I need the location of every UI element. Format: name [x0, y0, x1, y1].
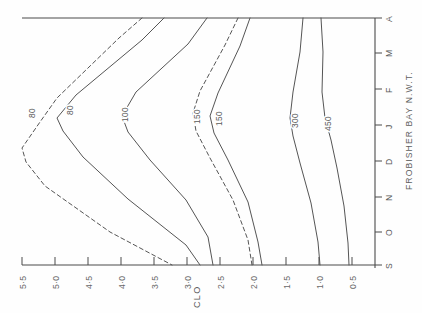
contour-line-80-dashed [22, 18, 172, 265]
clo-label-2-5: 2·5 [216, 276, 226, 289]
contour-label-80-dashed: 80 [27, 108, 37, 118]
clo-label-0-5: 0·5 [348, 276, 358, 289]
month-label-f: F [384, 87, 394, 93]
month-tick-labels: A M F J D N O S [384, 16, 394, 269]
contour-line-150-dashed [193, 18, 252, 265]
clo-label-2-0: 2·0 [249, 276, 259, 289]
contour-line-450-solid [321, 18, 349, 265]
month-ticks [375, 18, 382, 265]
contour-line-150-solid [210, 18, 262, 265]
contour-line-80-solid [57, 18, 200, 265]
clo-axis-title: CLO [192, 286, 202, 309]
contour-labels-group: 80 80 100 150 150 300 450 [27, 105, 333, 131]
chart-figure: 80 80 100 150 150 300 450 A M F J D N O … [0, 0, 422, 313]
month-label-s: S [384, 263, 394, 269]
month-label-n: N [384, 194, 394, 201]
contour-line-300-solid [290, 18, 320, 265]
month-label-d: D [384, 158, 394, 165]
clo-tick-labels: 5·5 5·0 4·5 4·0 3·5 3·0 2·5 2·0 1·5 1·0 … [18, 276, 358, 289]
contour-label-300: 300 [290, 113, 300, 128]
month-label-o: O [384, 229, 394, 236]
clo-label-1-0: 1·0 [315, 276, 325, 289]
contour-label-100: 100 [120, 107, 130, 122]
contour-line-100-solid [122, 18, 213, 265]
contour-label-150-dashed: 150 [192, 109, 202, 124]
station-title: FROBISHER BAY N.W.T. [404, 71, 414, 190]
contour-plot-svg: 80 80 100 150 150 300 450 A M F J D N O … [0, 0, 422, 313]
contour-label-450: 450 [323, 116, 333, 131]
clo-label-3-5: 3·5 [150, 276, 160, 289]
contour-label-150-solid: 150 [214, 111, 224, 126]
month-label-m: M [384, 50, 394, 57]
month-label-j: J [384, 124, 394, 129]
month-label-a: A [384, 16, 394, 22]
clo-label-5-5: 5·5 [18, 276, 28, 289]
clo-label-1-5: 1·5 [282, 276, 292, 289]
clo-label-4-5: 4·5 [84, 276, 94, 289]
clo-ticks [22, 257, 352, 265]
contour-label-80-solid: 80 [65, 105, 75, 115]
clo-label-5-0: 5·0 [51, 276, 61, 289]
clo-label-4-0: 4·0 [117, 276, 127, 289]
